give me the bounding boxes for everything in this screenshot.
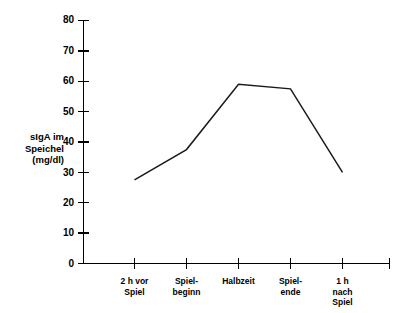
y-tick-label-80: 80 bbox=[52, 15, 74, 25]
y-tick-label-0: 0 bbox=[52, 259, 74, 269]
chart-figure: sIgA im Speichel (mg/dl) 80 70 60 50 40 … bbox=[0, 0, 405, 313]
data-series-line bbox=[135, 84, 343, 180]
y-tick-label-10: 10 bbox=[52, 228, 74, 238]
y-tick-label-70: 70 bbox=[52, 46, 74, 56]
y-tick-label-20: 20 bbox=[52, 198, 74, 208]
y-tick-label-50: 50 bbox=[52, 107, 74, 117]
y-tick-label-60: 60 bbox=[52, 76, 74, 86]
x-tick-label-4: 1 h nach Spiel bbox=[312, 276, 373, 308]
y-tick-label-30: 30 bbox=[52, 168, 74, 178]
y-tick-label-40: 40 bbox=[52, 137, 74, 147]
